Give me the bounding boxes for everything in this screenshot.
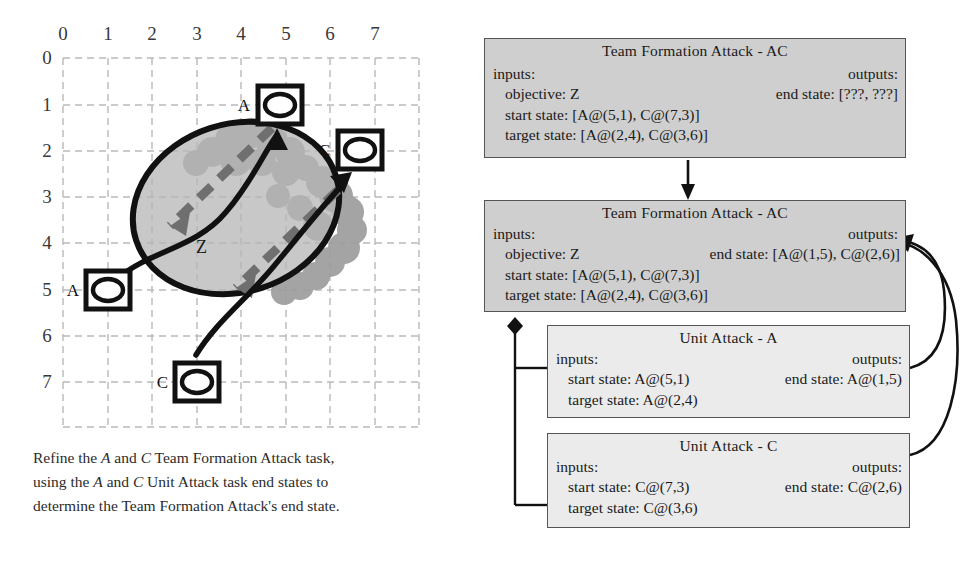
x-tick: 7	[370, 23, 380, 44]
outputs-label: outputs:	[848, 225, 898, 243]
start-state-value: start state: A@(5,1)	[548, 370, 689, 387]
x-tick: 4	[236, 23, 246, 44]
x-tick: 0	[58, 23, 68, 44]
end-state-value: end state: [A@(1,5), C@(2,6)]	[710, 245, 900, 263]
inputs-label: inputs:	[548, 458, 598, 475]
composition-connector	[515, 330, 547, 505]
x-tick: 1	[103, 23, 113, 44]
tactical-grid-panel: 0 1 2 3 4 5 6 7 0 1 2 3 4 5 6 7	[0, 0, 470, 440]
task-box-team-formation-attack-before[interactable]: Team Formation Attack - AC inputs: outpu…	[484, 38, 906, 158]
figure-caption: Refine the A and C Team Formation Attack…	[33, 446, 453, 518]
grid-y-axis-labels: 0 1 2 3 4 5 6 7	[42, 47, 52, 392]
composition-diamond-icon	[507, 317, 523, 335]
unit-symbol-c-end[interactable]: C	[157, 363, 219, 401]
caption-line: determine the Team Formation Attack's en…	[33, 494, 453, 518]
end-state-value: end state: [???, ???]	[776, 85, 898, 103]
end-state-value: end state: C@(2,6)	[785, 478, 902, 496]
tactical-grid-svg: 0 1 2 3 4 5 6 7 0 1 2 3 4 5 6 7	[0, 0, 470, 440]
task-decomposition-diagram: Team Formation Attack - AC inputs: outpu…	[470, 0, 966, 568]
target-state-value: target state: C@(3,6)	[548, 499, 698, 516]
y-tick: 3	[42, 186, 52, 207]
objective-value: objective: Z	[485, 85, 579, 102]
y-tick: 1	[42, 94, 52, 115]
inputs-label: inputs:	[485, 225, 535, 242]
x-tick: 5	[281, 23, 291, 44]
y-tick: 4	[42, 232, 52, 253]
y-tick: 7	[42, 371, 52, 392]
task-box-title: Unit Attack - C	[548, 434, 909, 455]
outputs-label: outputs:	[848, 65, 898, 83]
x-tick: 3	[192, 23, 202, 44]
task-box-unit-attack-a[interactable]: Unit Attack - A inputs: outputs: start s…	[547, 325, 910, 418]
objective-value: objective: Z	[485, 245, 579, 262]
caption-line: using the A and C Unit Attack task end s…	[33, 470, 453, 494]
x-tick: 6	[325, 23, 335, 44]
caption-line: Refine the A and C Team Formation Attack…	[33, 446, 453, 470]
y-tick: 2	[42, 140, 52, 161]
task-box-title: Team Formation Attack - AC	[485, 201, 905, 222]
inputs-label: inputs:	[485, 65, 535, 82]
x-tick: 2	[147, 23, 157, 44]
start-state-value: start state: C@(7,3)	[548, 478, 689, 495]
refinement-arrow	[681, 160, 695, 200]
task-box-title: Team Formation Attack - AC	[485, 39, 905, 60]
task-box-team-formation-attack-after[interactable]: Team Formation Attack - AC inputs: outpu…	[484, 200, 906, 312]
target-state-value: target state: [A@(2,4), C@(3,6)]	[485, 126, 708, 143]
outputs-label: outputs:	[852, 458, 902, 476]
inputs-label: inputs:	[548, 350, 598, 367]
start-state-value: start state: [A@(5,1), C@(7,3)]	[485, 106, 700, 123]
unit-label: C	[157, 373, 168, 392]
task-box-unit-attack-c[interactable]: Unit Attack - C inputs: outputs: start s…	[547, 433, 910, 528]
end-state-value: end state: A@(1,5)	[785, 370, 902, 388]
y-tick: 0	[42, 47, 52, 68]
y-tick: 5	[42, 279, 52, 300]
unit-symbol-a-end[interactable]: A	[67, 271, 130, 309]
unit-symbol-a-start[interactable]: A	[238, 86, 302, 124]
unit-label: A	[67, 281, 80, 300]
unit-label: A	[238, 96, 251, 115]
target-state-value: target state: A@(2,4)	[548, 391, 698, 408]
unit-label: C	[319, 141, 330, 160]
target-state-value: target state: [A@(2,4), C@(3,6)]	[485, 286, 708, 303]
outputs-label: outputs:	[852, 350, 902, 368]
start-state-value: start state: [A@(5,1), C@(7,3)]	[485, 266, 700, 283]
task-box-title: Unit Attack - A	[548, 326, 909, 347]
y-tick: 6	[42, 325, 52, 346]
objective-label: Z	[196, 237, 207, 257]
grid-x-axis-labels: 0 1 2 3 4 5 6 7	[58, 23, 380, 44]
